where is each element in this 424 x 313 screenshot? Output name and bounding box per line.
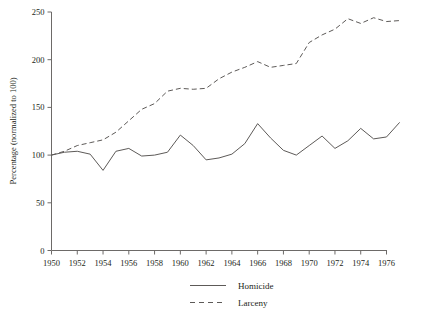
y-tick-label: 200 [32, 55, 45, 65]
x-tick-label: 1964 [223, 258, 241, 268]
x-tick-label: 1968 [275, 258, 292, 268]
x-tick-label: 1976 [378, 258, 395, 268]
y-axis-tick-labels: 050100150200250 [32, 7, 45, 256]
x-tick-label: 1966 [249, 258, 266, 268]
x-axis-tick-labels: 1950195219541956195819601962196419661968… [43, 258, 395, 268]
x-axis-ticks [52, 251, 387, 255]
y-tick-label: 150 [32, 102, 45, 112]
chart-legend: Homicide Larceny [190, 281, 274, 308]
series-line-homicide [52, 123, 400, 171]
chart-figure: 050100150200250 195019521954195619581960… [0, 0, 424, 313]
x-tick-label: 1958 [146, 258, 163, 268]
x-tick-label: 1950 [43, 258, 60, 268]
legend-label-homicide: Homicide [238, 281, 274, 291]
x-tick-label: 1954 [95, 258, 113, 268]
y-tick-label: 250 [32, 7, 45, 17]
x-tick-label: 1972 [326, 258, 343, 268]
x-tick-label: 1974 [352, 258, 370, 268]
x-tick-label: 1960 [172, 258, 189, 268]
legend-label-larceny: Larceny [238, 298, 268, 308]
x-tick-label: 1970 [301, 258, 318, 268]
y-tick-label: 50 [36, 198, 45, 208]
x-tick-label: 1956 [120, 258, 137, 268]
series-line-larceny [52, 18, 400, 155]
y-axis-title: Percentage (normalized to 100) [8, 77, 18, 184]
x-tick-label: 1962 [198, 258, 215, 268]
x-tick-label: 1952 [69, 258, 86, 268]
line-chart-svg: 050100150200250 195019521954195619581960… [0, 0, 424, 313]
y-tick-label: 0 [40, 246, 44, 256]
y-tick-label: 100 [32, 150, 45, 160]
y-axis-ticks [48, 12, 52, 251]
